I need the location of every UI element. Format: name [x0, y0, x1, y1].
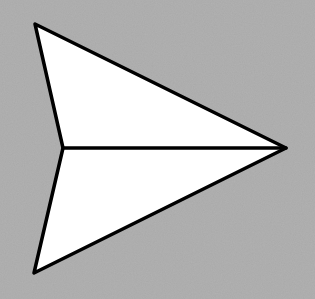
paper-airplane-icon: [0, 0, 315, 299]
image-canvas: [0, 0, 315, 299]
